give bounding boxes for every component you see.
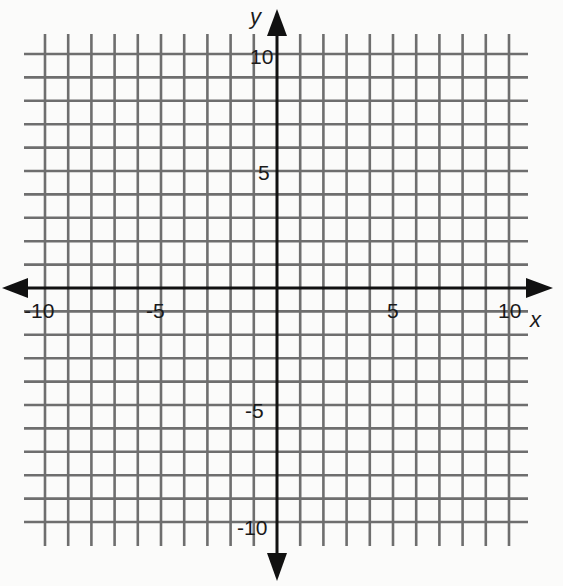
x-tick-label-neg5: -5 (146, 299, 165, 322)
y-tick-label-10: 10 (250, 45, 273, 68)
x-axis-right-arrow-icon (526, 278, 553, 298)
coordinate-plane: y x -10 -5 5 10 10 5 -5 -10 (0, 0, 563, 586)
y-axis-label: y (248, 4, 263, 29)
x-tick-label-10: 10 (498, 299, 521, 322)
y-tick-label-5: 5 (258, 161, 270, 184)
x-tick-label-5: 5 (387, 299, 399, 322)
x-axis-label: x (529, 307, 542, 332)
x-tick-label-neg10: -10 (24, 299, 54, 322)
y-tick-label-neg5: -5 (245, 399, 264, 422)
x-axis-left-arrow-icon (2, 278, 28, 298)
y-tick-label-neg10: -10 (237, 516, 267, 539)
y-axis-down-arrow-icon (267, 553, 287, 581)
y-axis-up-arrow-icon (267, 9, 287, 36)
